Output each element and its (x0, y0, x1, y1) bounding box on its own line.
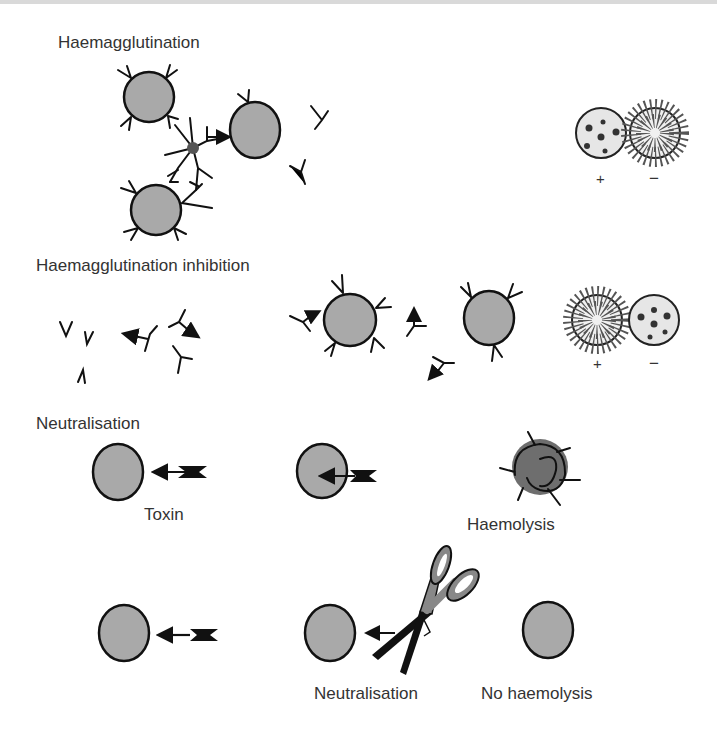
section-title-hai: Haemagglutination inhibition (36, 256, 250, 276)
diagram-canvas (0, 0, 717, 733)
haemagglutination-group (118, 65, 680, 240)
red-blood-cell (118, 65, 178, 130)
section-title-haemagglutination: Haemagglutination (58, 33, 200, 53)
agglutination-negative-well (630, 108, 680, 158)
well-label-minus: − (649, 354, 659, 374)
lysed-cell (500, 432, 580, 505)
red-blood-cell (324, 275, 391, 356)
no-haemolysis-label: No haemolysis (481, 684, 593, 704)
scissors-icon (372, 543, 484, 675)
well-label-minus: − (649, 169, 659, 189)
agglutination-positive-well (576, 108, 626, 158)
free-antibody (311, 106, 328, 129)
well-label-plus: + (596, 170, 605, 187)
haemolysis-label: Haemolysis (467, 515, 555, 535)
red-blood-cell (230, 90, 280, 158)
section-title-neutralisation: Neutralisation (36, 414, 140, 434)
well-label-plus: + (593, 355, 602, 372)
red-blood-cell (121, 181, 186, 240)
neutralisation-label: Neutralisation (314, 684, 418, 704)
free-antibody (290, 160, 305, 184)
inhibition-negative-well (629, 295, 679, 345)
toxin-label: Toxin (144, 505, 184, 525)
hai-group (60, 275, 679, 383)
neutralisation-group (93, 432, 580, 505)
red-blood-cell (461, 283, 522, 361)
inhibition-positive-well (572, 295, 622, 345)
neutralised-group (99, 543, 573, 675)
